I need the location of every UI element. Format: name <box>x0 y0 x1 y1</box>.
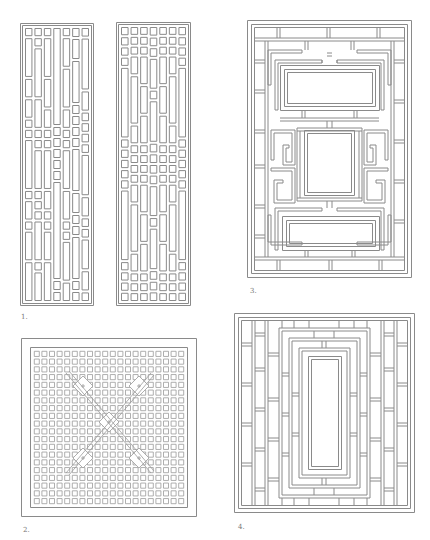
figure-3-panel <box>247 20 412 278</box>
lattice-panel-4 <box>234 313 415 513</box>
lattice-panel-2 <box>21 338 197 517</box>
figure-label-2: 2. <box>23 526 30 534</box>
figure-1-left-panel <box>20 23 94 306</box>
figure-1-right-panel <box>116 22 191 306</box>
figure-label-3: 3. <box>250 287 257 295</box>
lattice-panel-1b <box>116 22 191 306</box>
lattice-panel-1a <box>20 23 94 306</box>
figure-2-panel <box>21 338 197 517</box>
figure-label-4: 4. <box>238 523 245 531</box>
lattice-panel-3 <box>247 20 412 278</box>
figure-label-1: 1. <box>21 313 28 321</box>
figure-4-panel <box>234 313 415 513</box>
